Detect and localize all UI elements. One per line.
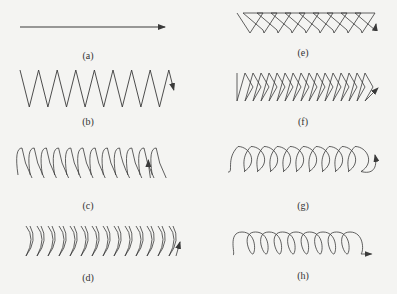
pattern-c-crescent bbox=[17, 148, 167, 178]
caption-c: (c) bbox=[82, 200, 93, 211]
pattern-f-triangle bbox=[237, 73, 378, 101]
pattern-h-oblique-circle bbox=[233, 232, 372, 255]
caption-d: (d) bbox=[82, 272, 94, 283]
caption-b: (b) bbox=[82, 116, 94, 127]
caption-a: (a) bbox=[82, 50, 93, 61]
weaving-patterns-diagram bbox=[0, 0, 397, 294]
caption-e: (e) bbox=[297, 47, 308, 58]
pattern-b-zigzag bbox=[20, 70, 174, 107]
caption-g: (g) bbox=[297, 200, 309, 211]
pattern-d-crescent bbox=[26, 226, 180, 256]
caption-f: (f) bbox=[298, 116, 308, 127]
pattern-e-triangle-oblique bbox=[237, 13, 376, 33]
pattern-g-circle bbox=[228, 147, 376, 173]
caption-h: (h) bbox=[297, 270, 309, 281]
